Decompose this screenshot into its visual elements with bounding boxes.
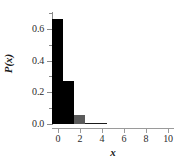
x-tick-label: 0 xyxy=(47,134,69,144)
x-tick-label: 8 xyxy=(135,134,157,144)
y-tick xyxy=(47,124,52,125)
x-tick-label: 2 xyxy=(69,134,91,144)
bar xyxy=(74,115,85,124)
bar-chart: 0.00.20.40.6 P(x) 0246810 x xyxy=(0,0,183,164)
x-axis-title: x xyxy=(52,147,174,158)
y-tick-label: 0.4 xyxy=(20,56,44,66)
bar xyxy=(96,123,107,124)
x-tick-label: 10 xyxy=(157,134,179,144)
y-tick-label: 0.0 xyxy=(20,119,44,129)
y-tick-label: 0.2 xyxy=(20,87,44,97)
y-tick-label: 0.6 xyxy=(20,24,44,34)
y-axis-title: P(x) xyxy=(3,42,14,86)
bar xyxy=(85,123,96,124)
x-tick-label: 6 xyxy=(113,134,135,144)
x-axis-line xyxy=(52,128,174,129)
x-tick-label: 4 xyxy=(91,134,113,144)
plot-area xyxy=(52,13,173,124)
bar xyxy=(52,19,63,124)
bar xyxy=(63,81,74,124)
